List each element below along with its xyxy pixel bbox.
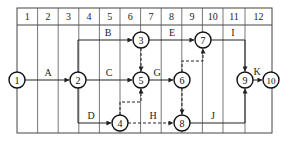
column-label: 6: [128, 11, 133, 22]
activity-label: E: [169, 27, 175, 38]
column-label: 10: [208, 11, 218, 22]
activity-label: C: [106, 67, 113, 78]
activity-label: H: [149, 110, 156, 121]
column-label: 3: [66, 11, 71, 22]
column-label: 11: [229, 11, 239, 22]
activity-label: I: [231, 27, 234, 38]
node-8: 8: [174, 115, 190, 131]
node-3: 3: [133, 32, 149, 48]
column-label: 5: [107, 11, 112, 22]
node-label: 6: [180, 75, 185, 86]
node-label: 8: [180, 118, 185, 129]
node-label: 9: [243, 75, 248, 86]
node-4: 4: [112, 115, 128, 131]
network-diagram: 1 2 3 4 5 6 7 8 9 10 11 12: [0, 0, 291, 142]
node-2: 2: [70, 72, 86, 88]
column-label: 1: [25, 11, 30, 22]
column-label: 7: [148, 11, 153, 22]
node-6: 6: [174, 72, 190, 88]
node-7: 7: [195, 32, 211, 48]
event-nodes: 1 2 3 4 5 6 7 8: [9, 32, 279, 131]
node-5: 5: [133, 72, 149, 88]
node-9: 9: [237, 72, 253, 88]
activity-label: B: [105, 27, 112, 38]
column-label: 12: [254, 11, 264, 22]
column-label: 9: [190, 11, 195, 22]
node-label: 3: [139, 35, 144, 46]
arc-j: [190, 89, 245, 123]
node-label: 7: [201, 35, 206, 46]
column-label: 4: [87, 11, 92, 22]
dummy-6-7: [182, 49, 203, 72]
activity-label: A: [44, 67, 52, 78]
column-label: 2: [45, 11, 50, 22]
node-10: 10: [263, 72, 279, 88]
node-label: 2: [76, 75, 81, 86]
node-label: 4: [118, 118, 123, 129]
node-label: 1: [15, 75, 20, 86]
column-label: 8: [169, 11, 174, 22]
node-1: 1: [9, 72, 25, 88]
activity-label: G: [153, 67, 160, 78]
node-label: 5: [139, 75, 144, 86]
dummy-4-5: [120, 89, 141, 115]
activity-label: J: [211, 110, 215, 121]
node-label: 10: [267, 76, 277, 86]
arc-i: [211, 40, 245, 71]
activity-label: K: [253, 66, 261, 77]
activity-label: D: [87, 110, 94, 121]
time-header: 1 2 3 4 5 6 7 8 9 10 11 12: [25, 11, 264, 22]
